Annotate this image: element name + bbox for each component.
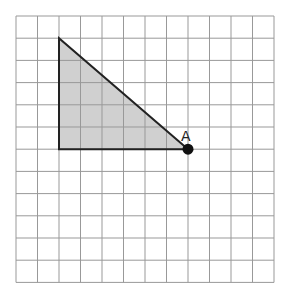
grid-diagram [0, 0, 283, 300]
point-label-a: A [181, 128, 191, 144]
point-a-dot [183, 144, 194, 155]
